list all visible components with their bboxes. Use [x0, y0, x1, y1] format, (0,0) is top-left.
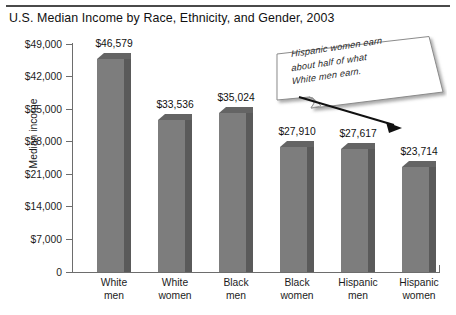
- bar-white-women: [158, 114, 192, 272]
- y-tick-mark: [66, 109, 72, 110]
- bar-value-label: $27,617: [339, 128, 376, 139]
- y-tick-label: $49,000: [25, 39, 62, 50]
- annotation-callout: Hispanic women earn about half of what W…: [271, 36, 447, 114]
- title-rule: [6, 5, 450, 7]
- y-tick-mark: [66, 141, 72, 142]
- category-line-2: women: [399, 290, 439, 303]
- y-axis-line: [72, 43, 73, 273]
- bar-front-face: [341, 149, 368, 272]
- y-tick-mark: [66, 239, 72, 240]
- bar-side-face: [185, 120, 192, 272]
- category-line-1: White: [158, 277, 191, 290]
- bar-side-face: [368, 149, 375, 272]
- y-tick-label: $7,000: [31, 234, 63, 245]
- bar-value-label: $23,714: [400, 146, 437, 157]
- bar-front-face: [97, 59, 124, 272]
- category-line-1: Hispanic: [399, 277, 439, 290]
- x-tick-label-black-men: Black men: [223, 277, 248, 302]
- category-line-1: Black: [280, 277, 313, 290]
- x-tick-label-hispanic-men: Hispanic men: [338, 277, 378, 302]
- x-tick-label-black-women: Black women: [280, 277, 313, 302]
- bar-front-face: [158, 120, 185, 272]
- bar-hispanic-women: [402, 161, 436, 272]
- bar-front-face: [402, 167, 429, 272]
- y-tick-mark: [66, 44, 72, 45]
- bar-value-label: $35,024: [217, 92, 254, 103]
- bar-front-face: [219, 113, 246, 272]
- bar-side-face: [246, 113, 253, 272]
- category-line-2: men: [338, 290, 378, 303]
- bar-front-face: [280, 147, 307, 272]
- y-tick-label: $14,000: [25, 201, 62, 212]
- bar-white-men: [97, 53, 131, 272]
- y-tick-mark: [66, 206, 72, 207]
- bar-side-face: [429, 167, 436, 272]
- bar-value-label: $27,910: [278, 126, 315, 137]
- x-tick-label-white-men: White men: [101, 277, 127, 302]
- y-tick-mark: [66, 76, 72, 77]
- category-line-2: men: [223, 290, 248, 303]
- category-line-2: men: [101, 290, 127, 303]
- x-axis-line: [72, 272, 440, 273]
- chart-figure: U.S. Median Income by Race, Ethnicity, a…: [0, 0, 456, 315]
- chart-title: U.S. Median Income by Race, Ethnicity, a…: [9, 11, 335, 25]
- x-axis-end-tick: [439, 265, 440, 273]
- y-tick-mark: [66, 174, 72, 175]
- bar-side-face: [307, 147, 314, 272]
- category-line-1: White: [101, 277, 127, 290]
- bar-value-label: $33,536: [156, 99, 193, 110]
- bar-value-label: $46,579: [95, 38, 132, 49]
- bar-hispanic-men: [341, 143, 375, 272]
- x-tick-label-hispanic-women: Hispanic women: [399, 277, 439, 302]
- bar-black-men: [219, 107, 253, 272]
- y-tick-label: 0: [56, 267, 62, 278]
- x-tick-label-white-women: White women: [158, 277, 191, 302]
- y-tick-mark: [66, 272, 72, 273]
- y-tick-label: $35,000: [25, 104, 62, 115]
- category-line-1: Black: [223, 277, 248, 290]
- y-tick-label: $28,000: [25, 136, 62, 147]
- category-line-1: Hispanic: [338, 277, 378, 290]
- category-line-2: women: [158, 290, 191, 303]
- y-tick-label: $21,000: [25, 169, 62, 180]
- bar-black-women: [280, 141, 314, 272]
- y-tick-label: $42,000: [25, 71, 62, 82]
- category-line-2: women: [280, 290, 313, 303]
- bar-side-face: [124, 59, 131, 272]
